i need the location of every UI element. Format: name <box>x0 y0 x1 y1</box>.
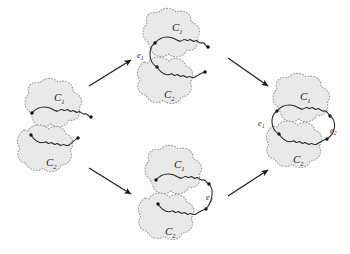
panel-merged-e2: C1 C2 e2 <box>138 145 212 239</box>
label-e2: e2 <box>330 125 337 136</box>
endpoint-dot <box>30 111 33 114</box>
arrow-left-to-bottom <box>89 168 131 194</box>
panel-merged-e1-e2: C1 C2 e1 e2 <box>258 73 337 167</box>
figure-canvas: C1 C2 C1 C2 <box>0 0 350 254</box>
panel-merged-e1: C1 C2 e1 <box>137 8 210 103</box>
endpoint-dot <box>203 70 206 73</box>
endpoint-dot <box>156 202 159 205</box>
endpoint-dot <box>206 45 209 48</box>
page-bleed-line-1 <box>18 230 21 238</box>
endpoint-dot <box>154 178 157 181</box>
endpoint-dot <box>29 133 32 136</box>
arrow-left-to-top <box>89 60 131 86</box>
endpoint-dot <box>89 115 92 118</box>
endpoint-dot <box>76 136 79 139</box>
page-bleed-line-2 <box>18 241 21 249</box>
arrow-top-to-right <box>228 58 268 86</box>
panel-disjoint: C1 C2 <box>17 78 92 171</box>
arrow-bottom-to-right <box>228 170 268 196</box>
label-e1: e1 <box>137 50 144 61</box>
label-e1: e1 <box>258 118 265 129</box>
